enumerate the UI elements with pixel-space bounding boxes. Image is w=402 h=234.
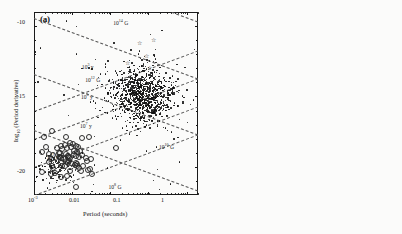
pulsar-data-point <box>107 93 108 94</box>
pulsar-data-point <box>65 179 66 180</box>
pulsar-data-point <box>168 87 169 88</box>
panel-a-xtick-minor <box>68 193 69 195</box>
pulsar-data-point <box>159 81 160 82</box>
panel-a-ytick <box>195 96 198 97</box>
pulsar-data-point <box>165 72 166 73</box>
pulsar-data-point <box>173 88 174 89</box>
pulsar-data-point <box>164 77 165 78</box>
pulsar-data-point <box>134 69 135 70</box>
panel-a-ytick <box>34 153 36 154</box>
panel-a-xtick-minor <box>198 12 199 14</box>
pulsar-data-point <box>130 49 131 50</box>
panel-a-xticklabel-3: 1 <box>161 197 164 203</box>
pulsar-data-point <box>162 110 163 111</box>
pulsar-data-point <box>158 103 159 104</box>
pulsar-data-point <box>126 108 127 109</box>
pulsar-data-point <box>130 88 131 89</box>
panel-a-plot-area: 1014 G1012 G1010 G108 G103 y105 y107 y10… <box>34 12 198 195</box>
pulsar-data-point <box>118 83 119 84</box>
pulsar-data-point <box>129 84 130 85</box>
panel-a-xtick-minor <box>66 193 67 195</box>
pulsar-data-point <box>95 102 96 103</box>
pulsar-data-point <box>157 125 158 126</box>
pulsar-data-point <box>134 104 135 105</box>
pulsar-data-point <box>133 122 134 123</box>
pulsar-data-point <box>138 53 139 54</box>
pulsar-data-point <box>155 79 156 80</box>
panel-a-p-pdot-diagram: (a) 1014 G1012 G1010 G108 G103 y105 y107… <box>0 0 210 234</box>
pulsar-data-point <box>122 91 123 92</box>
pulsar-data-point <box>163 77 164 78</box>
pulsar-data-point <box>104 112 105 113</box>
pulsar-data-point <box>159 67 160 68</box>
pulsar-data-point <box>105 66 106 67</box>
pulsar-data-point <box>156 70 157 71</box>
pulsar-data-point <box>135 115 136 116</box>
pulsar-data-point <box>162 87 163 88</box>
panel-a-xtick-minor <box>104 193 105 195</box>
binary-pulsar-marker <box>52 170 58 176</box>
panel-a-xtick-minor <box>145 12 146 14</box>
pulsar-data-point <box>173 138 174 139</box>
pulsar-data-point <box>126 79 127 80</box>
pulsar-data-point <box>94 164 95 165</box>
pulsar-data-point <box>71 176 72 177</box>
panel-a-xtick-minor <box>122 193 123 195</box>
pulsar-data-point <box>130 106 131 107</box>
panel-a-xtick-minor <box>68 12 69 14</box>
pulsar-data-point <box>136 95 137 96</box>
panel-a-xtick-minor <box>181 12 182 14</box>
panel-a-ytick <box>34 40 36 41</box>
pulsar-data-point <box>151 115 152 116</box>
pulsar-data-point <box>141 59 142 60</box>
panel-a-xtick-minor <box>99 12 100 14</box>
panel-a-xtick-minor <box>181 193 182 195</box>
binary-pulsar-marker <box>39 169 45 175</box>
pulsar-data-point <box>68 115 69 116</box>
pulsar-data-point <box>155 114 156 115</box>
pulsar-data-point <box>135 97 136 98</box>
panel-a-xtick-minor <box>145 193 146 195</box>
pulsar-data-point <box>168 90 169 91</box>
pulsar-data-point <box>100 73 101 74</box>
pulsar-data-point <box>142 70 143 71</box>
pulsar-data-point <box>107 112 108 113</box>
panel-a-ytick <box>34 26 37 27</box>
panel-a-xtick-minor <box>183 12 184 14</box>
pulsar-data-point <box>121 94 122 95</box>
pulsar-data-point <box>154 89 155 90</box>
pulsar-data-point <box>130 118 131 119</box>
panel-a-xtick-minor <box>137 12 138 14</box>
panel-a-xtick-minor <box>133 12 134 14</box>
panel-a-xtick-minor <box>70 193 71 195</box>
pulsar-data-point <box>107 60 108 61</box>
pulsar-data-point <box>122 127 123 128</box>
pulsar-data-point <box>165 81 166 82</box>
panel-a-y-axis-title: log10 (Period derivative) <box>12 80 19 142</box>
binary-pulsar-marker <box>79 135 85 141</box>
pulsar-data-point <box>150 101 151 102</box>
pulsar-data-point <box>168 109 169 110</box>
pulsar-data-point <box>132 78 133 79</box>
panel-a-xticklabel-2: 0.1 <box>113 197 121 203</box>
panel-a-xtick-minor <box>137 193 138 195</box>
pulsar-data-point <box>151 72 152 73</box>
pulsar-data-point <box>127 110 128 111</box>
pulsar-data-point <box>108 80 109 81</box>
panel-a-yticklabel-2: -20 <box>17 168 25 174</box>
pulsar-data-point <box>169 77 170 78</box>
panel-a-xtick-minor <box>84 193 85 195</box>
pulsar-data-point <box>99 110 100 111</box>
pulsar-data-point <box>118 79 119 80</box>
panel-a-xtick-minor <box>175 193 176 195</box>
panel-a-xtick-minor <box>171 12 172 14</box>
pulsar-data-point <box>155 58 156 59</box>
panel-a-xtick-minor <box>147 12 148 14</box>
pulsar-data-point <box>129 67 130 68</box>
pulsar-data-point <box>141 116 142 117</box>
pulsar-data-point <box>88 67 89 68</box>
panel-a-xtick-major-4 <box>187 192 188 195</box>
pulsar-data-point <box>161 30 162 31</box>
pulsar-data-point <box>173 82 174 83</box>
panel-a-ytick <box>196 125 198 126</box>
